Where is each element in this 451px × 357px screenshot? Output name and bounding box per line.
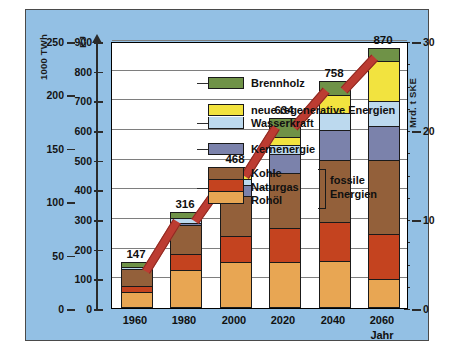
- legend-item-fossil-group: Kohle Naturgas Rohöl: [208, 167, 299, 208]
- twh-tick-100: 100: [28, 196, 64, 208]
- legend-item-wasserkraft: Wasserkraft: [208, 117, 314, 129]
- segment-2040-kernenergie: [320, 130, 350, 160]
- legend-item-kernenergie: Kernenergie: [208, 143, 315, 155]
- ej-tick-0: 0: [62, 303, 92, 315]
- ej-tick-100: 100: [62, 273, 92, 285]
- legend-label-kohle: Kohle: [251, 167, 299, 181]
- legend-swatch-kernenergie: [208, 143, 244, 155]
- x-label-2060: 2060: [357, 314, 407, 326]
- ske-tickmark-10: [412, 220, 421, 222]
- segment-2000-roh-l: [221, 262, 251, 307]
- ske-tickmark-20: [412, 131, 421, 133]
- leader-line-kernenergie: [197, 149, 208, 150]
- ej-tickmark-600: [94, 131, 103, 133]
- twh-tick-0: 0: [28, 303, 64, 315]
- ej-tickmark-900: [94, 42, 103, 44]
- ej-tickmark-300: [94, 220, 103, 222]
- twh-tickmark-100: [67, 202, 75, 204]
- segment-2040-naturgas: [320, 222, 350, 261]
- ej-tickmark-800: [94, 72, 103, 74]
- segment-1960-roh-l: [122, 292, 152, 307]
- segment-2040-roh-l: [320, 261, 350, 307]
- x-label-1980: 1980: [159, 314, 209, 326]
- x-label-1960: 1960: [110, 314, 160, 326]
- segment-2060-kernenergie: [369, 126, 399, 160]
- segment-2000-naturgas: [221, 236, 251, 263]
- twh-tickmark-50: [67, 256, 75, 258]
- x-label-2040: 2040: [308, 314, 358, 326]
- legend-label-naturgas: Naturgas: [251, 181, 299, 195]
- ske-tick-30: 30: [423, 36, 445, 48]
- ske-tick-20: 20: [423, 125, 445, 137]
- ej-tick-300: 300: [62, 214, 92, 226]
- ej-tick-900: 900: [62, 36, 92, 48]
- legend-swatch-naturgas: [209, 179, 243, 191]
- ej-tick-500: 500: [62, 155, 92, 167]
- ej-tick-600: 600: [62, 125, 92, 137]
- gridline: [112, 129, 407, 130]
- x-label-2020: 2020: [258, 314, 308, 326]
- legend-swatch-neue-regenerative: [208, 104, 244, 116]
- x-axis-title: Jahr: [356, 329, 408, 341]
- gridline: [112, 99, 407, 100]
- ske-tickmark-30: [412, 42, 421, 44]
- plot-area: 147316468634758870 Brennholz neue regene…: [111, 42, 408, 309]
- legend-swatch-kohle: [209, 168, 243, 179]
- fossil-label-line2: Energien: [330, 188, 377, 200]
- twh-tick-150: 150: [28, 143, 64, 155]
- ej-tick-400: 400: [62, 184, 92, 196]
- segment-2060-naturgas: [369, 234, 399, 279]
- axis-title-right: Mrd. t SKE: [407, 78, 418, 128]
- legend-swatch-fossil-stack: [208, 167, 244, 204]
- segment-2020-naturgas: [270, 228, 300, 262]
- leader-line-wasserkraft: [197, 123, 208, 124]
- ej-tickmark-0: [94, 309, 103, 311]
- legend-label-brennholz: Brennholz: [251, 77, 305, 89]
- ej-tickmark-500: [94, 161, 103, 163]
- segment-2060-roh-l: [369, 279, 399, 307]
- twh-tickmark-150: [67, 149, 75, 151]
- gridline: [112, 277, 407, 278]
- fossil-group-label: fossile Energien: [330, 174, 377, 201]
- ej-tickmark-100: [94, 279, 103, 281]
- fossil-label-line1: fossile: [330, 174, 365, 186]
- segment-2020-roh-l: [270, 262, 300, 307]
- twh-tick-250: 250: [28, 36, 64, 48]
- ej-axis-line: [96, 40, 98, 311]
- ej-tick-800: 800: [62, 66, 92, 78]
- legend-item-brennholz: Brennholz: [208, 77, 305, 89]
- x-label-2000: 2000: [209, 314, 259, 326]
- ske-tick-0: 0: [423, 303, 445, 315]
- ske-tick-10: 10: [423, 214, 445, 226]
- ske-tickmark-0: [412, 309, 421, 311]
- chart-panel: 1000 TWh 050100150200250 EJ 010020030040…: [25, 9, 429, 341]
- segment-1980-naturgas: [171, 254, 201, 270]
- segment-2060-neue-regenerative-energien: [369, 61, 399, 101]
- bar-value-2060: 870: [358, 34, 408, 46]
- twh-tick-50: 50: [28, 250, 64, 262]
- ej-tickmark-200: [94, 250, 103, 252]
- legend-swatch-rohoel: [209, 191, 243, 203]
- twh-tick-200: 200: [28, 89, 64, 101]
- legend-item-neue-regenerative: neue regenerative Energien: [208, 104, 395, 116]
- legend-label-neue-regenerative: neue regenerative Energien: [251, 104, 395, 116]
- ej-tick-700: 700: [62, 95, 92, 107]
- bar-value-1980: 316: [160, 198, 210, 210]
- ej-tick-200: 200: [62, 244, 92, 256]
- segment-1980-roh-l: [171, 270, 201, 307]
- fossil-brace: [318, 169, 326, 209]
- gridline: [112, 218, 407, 219]
- legend-label-wasserkraft: Wasserkraft: [251, 117, 314, 129]
- energy-forecast-chart: 1000 TWh 050100150200250 EJ 010020030040…: [0, 0, 451, 357]
- bar-value-1960: 147: [111, 248, 161, 260]
- legend-label-kernenergie: Kernenergie: [251, 143, 315, 155]
- ske-minor-tickmark: [404, 309, 410, 310]
- bar-value-2040: 758: [309, 67, 359, 79]
- ej-tickmark-700: [94, 101, 103, 103]
- leader-line-fossil: [197, 188, 208, 189]
- legend-swatch-brennholz: [208, 77, 244, 89]
- leader-line-brennholz: [197, 83, 208, 84]
- legend-label-rohoel: Rohöl: [251, 194, 299, 208]
- ej-tickmark-400: [94, 190, 103, 192]
- legend-swatch-wasserkraft: [208, 117, 244, 129]
